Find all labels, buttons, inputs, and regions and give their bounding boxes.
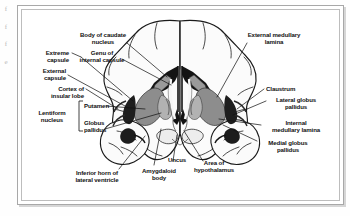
page-margin-marks: f f f e — [0, 6, 12, 66]
label-external-medullary-lamina: External medullary lamina — [234, 31, 314, 45]
margin-mark-2: f — [5, 41, 7, 48]
label-external-capsule: External capsule — [21, 67, 66, 81]
label-lateral-globus-pallidus: Lateral globus pallidus — [264, 96, 328, 110]
lentiform-nucleus-bracket — [79, 101, 83, 131]
label-genu-of-internal-capsule: Genu of internal capsule — [69, 49, 135, 63]
label-amygdaloid-body: Amygdaloid body — [133, 167, 185, 181]
label-extreme-capsule: Extreme capsule — [21, 49, 69, 63]
label-internal-medullary-lamina: Internal medullary lamina — [261, 119, 331, 133]
label-inferior-horn-of-lateral-ventricle: Inferior horn of lateral ventricle — [61, 169, 133, 183]
label-putamen: Putamen — [84, 102, 126, 109]
label-cortex-of-insular-lobe: Cortex of insular lobe — [21, 85, 84, 99]
margin-mark-0: f — [5, 6, 7, 13]
label-lentiform-nucleus: Lentiform nucleus — [27, 109, 77, 123]
figure-stage: Body of caudate nucleus Genu of internal… — [21, 9, 340, 201]
figure-page: f f f e — [0, 0, 350, 216]
label-body-of-caudate-nucleus: Body of caudate nucleus — [68, 31, 138, 45]
label-claustrum: Claustrum — [266, 85, 326, 92]
label-globus-pallidus: Globus pallidus — [84, 119, 126, 133]
margin-mark-3: e — [4, 59, 7, 66]
label-medial-globus-pallidus: Medial globus pallidus — [255, 139, 321, 153]
margin-mark-1: f — [5, 24, 7, 31]
label-area-of-hypothalamus: Area of hypothalamus — [183, 159, 245, 173]
